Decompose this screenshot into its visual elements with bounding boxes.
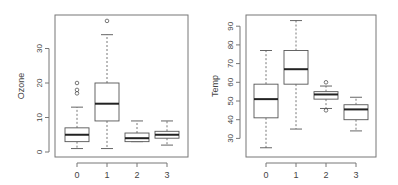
outlier-point bbox=[324, 81, 328, 85]
y-tick-label: 50 bbox=[226, 96, 235, 105]
y-tick-label: 70 bbox=[226, 59, 235, 68]
x-tick-label: 1 bbox=[293, 170, 298, 180]
y-tick-label: 40 bbox=[226, 115, 235, 124]
x-tick-label: 2 bbox=[134, 170, 139, 180]
outlier-point bbox=[324, 109, 328, 113]
x-tick-label: 1 bbox=[104, 170, 109, 180]
x-tick-label: 3 bbox=[164, 170, 169, 180]
box-group-3 bbox=[344, 97, 368, 131]
outlier-point bbox=[75, 81, 79, 85]
box-group-2 bbox=[125, 121, 149, 142]
y-tick-label: 30 bbox=[226, 133, 235, 142]
outlier-point bbox=[105, 19, 109, 23]
y-tick-label: 0 bbox=[35, 149, 44, 154]
figure-canvas: 0102030Ozone0123 30405060708090Temp0123 bbox=[0, 0, 398, 185]
y-tick-label: 10 bbox=[35, 113, 44, 122]
iqr-box bbox=[284, 51, 308, 85]
box-group-2 bbox=[314, 81, 338, 113]
box-group-1 bbox=[95, 19, 119, 148]
x-tick-label: 2 bbox=[323, 170, 328, 180]
temp-boxplot-panel: 30405060708090Temp0123 bbox=[210, 15, 376, 180]
box-group-0 bbox=[65, 81, 89, 148]
iqr-box bbox=[95, 83, 119, 121]
y-tick-label: 30 bbox=[35, 44, 44, 53]
iqr-box bbox=[344, 105, 368, 120]
box-group-0 bbox=[254, 51, 278, 148]
x-tick-label: 3 bbox=[353, 170, 358, 180]
y-axis-label: Temp bbox=[210, 75, 220, 97]
box-group-3 bbox=[155, 121, 179, 145]
y-axis-label: Ozone bbox=[16, 73, 26, 100]
x-tick-label: 0 bbox=[263, 170, 268, 180]
box-group-1 bbox=[284, 21, 308, 129]
boxplot-figure: 0102030Ozone0123 30405060708090Temp0123 bbox=[0, 0, 398, 185]
y-tick-label: 80 bbox=[226, 40, 235, 49]
x-tick-label: 0 bbox=[74, 170, 79, 180]
iqr-box bbox=[254, 84, 278, 118]
y-tick-label: 60 bbox=[226, 77, 235, 86]
y-tick-label: 20 bbox=[35, 78, 44, 87]
y-tick-label: 90 bbox=[226, 21, 235, 30]
ozone-boxplot-panel: 0102030Ozone0123 bbox=[16, 15, 188, 180]
